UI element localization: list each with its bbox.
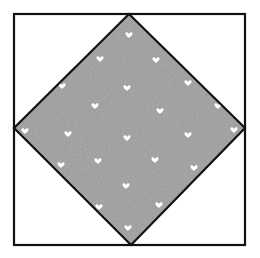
square-diamond-diagram	[0, 0, 260, 258]
